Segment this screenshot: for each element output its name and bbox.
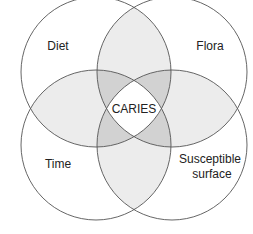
susceptible-surface-label-line2: surface: [192, 167, 232, 181]
susceptible-surface-label-line1: Susceptible: [179, 152, 241, 166]
diet-label: Diet: [47, 39, 69, 53]
caries-label: CARIES: [112, 102, 157, 116]
time-label: Time: [45, 157, 72, 171]
flora-label: Flora: [196, 39, 224, 53]
caries-venn-diagram: Diet Flora Time Susceptible surface CARI…: [0, 0, 253, 234]
